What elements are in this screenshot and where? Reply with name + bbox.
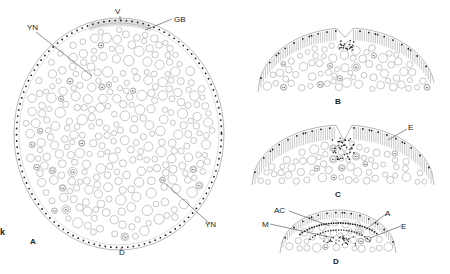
- label-yn-top: YN: [27, 24, 38, 32]
- label-yn-bottom: YN: [205, 221, 216, 229]
- label-m: M: [262, 221, 269, 229]
- panel-label-d: D: [333, 258, 339, 266]
- label-a: A: [385, 210, 390, 218]
- label-v: V: [115, 8, 120, 16]
- section-drawings: [0, 0, 450, 274]
- label-e-c: E: [408, 124, 413, 132]
- embryology-figure: V GB YN YN D k A B E C AC M A E D: [0, 0, 450, 274]
- side-mark: k: [0, 228, 5, 237]
- panel-label-b: B: [335, 98, 341, 106]
- panel-label-c: C: [335, 191, 341, 199]
- label-d: D: [119, 249, 125, 257]
- label-ac: AC: [274, 207, 285, 215]
- label-e-d: E: [401, 223, 406, 231]
- label-gb: GB: [174, 16, 186, 24]
- panel-label-a: A: [30, 238, 36, 246]
